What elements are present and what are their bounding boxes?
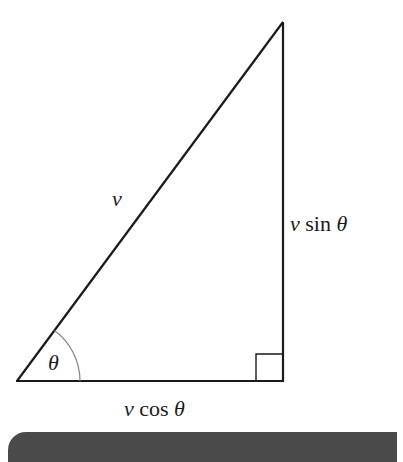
theta-symbol: θ <box>48 350 59 375</box>
horizontal-func: cos <box>134 396 174 421</box>
hypotenuse-var: v <box>112 186 122 211</box>
bottom-dark-bar <box>8 432 397 462</box>
angle-label: θ <box>48 352 59 374</box>
horizontal-var: v <box>124 396 134 421</box>
horizontal-angle: θ <box>174 396 185 421</box>
vertical-func: sin <box>300 211 337 236</box>
right-angle-marker <box>256 354 283 381</box>
horizontal-side-label: v cos θ <box>124 398 185 420</box>
vertical-angle: θ <box>336 211 347 236</box>
vertical-side-label: v sin θ <box>290 213 347 235</box>
vertical-var: v <box>290 211 300 236</box>
hypotenuse-label: v <box>112 188 122 210</box>
hypotenuse-line <box>17 22 283 381</box>
